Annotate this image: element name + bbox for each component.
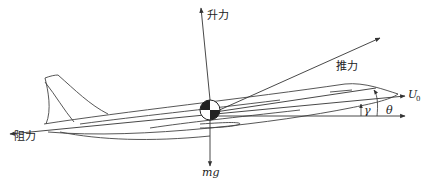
- weight-label: mg: [202, 166, 219, 179]
- airplane-outline: [44, 75, 398, 139]
- thrust-label: 推力: [336, 59, 358, 73]
- theta-label: θ: [386, 104, 393, 117]
- lift-vector: [201, 8, 211, 110]
- gamma-label: γ: [364, 104, 371, 117]
- velocity-vector: [215, 96, 405, 114]
- drag-vector: [10, 114, 215, 134]
- body-axis: [215, 88, 376, 112]
- lift-label: 升力: [207, 9, 229, 22]
- velocity-subscript: 0: [416, 95, 420, 103]
- force-diagram: 升力 推力 阻力 mg U 0 γ θ: [0, 0, 427, 186]
- drag-label: 阻力: [14, 130, 36, 143]
- center-of-gravity-icon: [200, 100, 220, 120]
